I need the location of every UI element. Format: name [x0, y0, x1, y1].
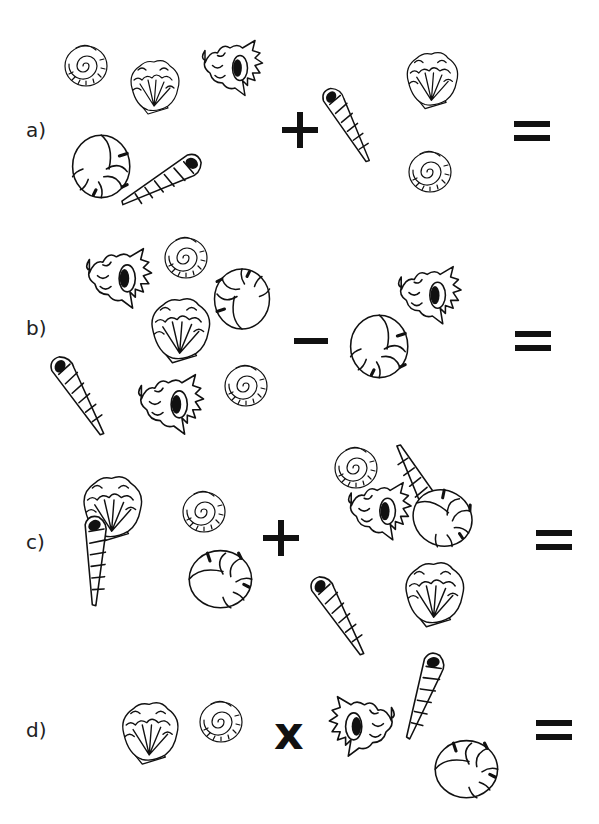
conch-shell-icon — [0, 694, 397, 824]
problem-a-label: a) — [26, 118, 46, 142]
problem-d-right-group — [320, 654, 510, 804]
equals-sign — [514, 121, 550, 141]
nautilus-shell-icon — [430, 410, 599, 800]
equals-sign — [536, 720, 572, 740]
problem-c-label: c) — [26, 530, 45, 554]
